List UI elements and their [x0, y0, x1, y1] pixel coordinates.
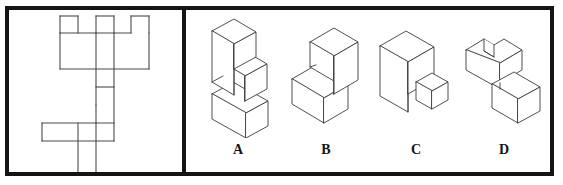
stimulus-panel — [9, 10, 182, 172]
option-c-label: C — [386, 142, 446, 158]
option-b-label: B — [296, 142, 356, 158]
option-a-figure[interactable] — [198, 10, 270, 138]
options-panel: A B C D — [186, 10, 550, 172]
isometric-staircase-three-step — [198, 10, 270, 138]
isometric-slab-and-detached-cube — [376, 10, 456, 138]
option-a-label: A — [208, 142, 268, 158]
test-item-page: A B C D — [0, 0, 563, 185]
option-d-label: D — [474, 142, 534, 158]
unfolded-net-pattern — [9, 10, 182, 172]
option-b-figure[interactable] — [286, 10, 364, 138]
isometric-notched-block-with-step — [462, 10, 544, 138]
isometric-two-block-step — [286, 10, 364, 138]
option-d-figure[interactable] — [462, 10, 544, 138]
option-c-figure[interactable] — [376, 10, 456, 138]
